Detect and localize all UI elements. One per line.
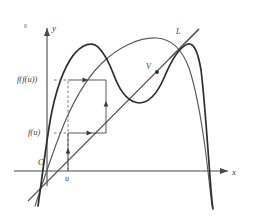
cobweb-arrow-h2 [83, 78, 89, 83]
cobweb-arrow-v2 [104, 101, 109, 107]
fixed-point-label: V [146, 63, 151, 71]
origin-label: O [38, 158, 44, 167]
label-f-of-f-of-u: f(f(u)) [17, 75, 37, 84]
label-f-of-u: f(u) [28, 128, 40, 137]
cobweb-arrow-v1 [66, 148, 71, 154]
cobweb-arrow-h1 [87, 131, 93, 136]
fixed-point-marker [155, 70, 159, 74]
curve-f [35, 38, 212, 206]
figure-container: y x O f(f(u)) f(u) u L V [0, 0, 257, 216]
y-axis-arrowhead [44, 28, 50, 36]
line-L-extension [170, 29, 199, 58]
curve-f-compose-f [38, 44, 213, 209]
x-axis-label: x [232, 168, 236, 177]
line-L-label: L [176, 28, 180, 36]
y-axis-label: y [52, 24, 56, 33]
x-axis-arrowhead [220, 168, 228, 174]
diagram-canvas [0, 0, 257, 216]
x-tick-label-u: u [65, 175, 69, 183]
